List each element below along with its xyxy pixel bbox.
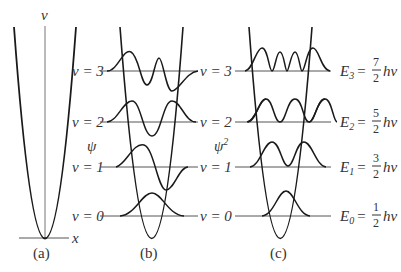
probability-density-2b	[247, 99, 337, 122]
axis-v-label: v	[41, 7, 48, 23]
caption-b: (b)	[140, 245, 158, 262]
svg-text:E0=: E0=	[339, 208, 366, 226]
axis-x-label: x	[71, 230, 79, 246]
label-v2-right: v = 2	[200, 114, 232, 130]
label-v2-left: v = 2	[72, 114, 104, 130]
energy-label-1: E1= 3 2 hν	[339, 151, 398, 181]
svg-text:E3=: E3=	[339, 63, 366, 81]
svg-text:7: 7	[373, 55, 379, 69]
label-v1-right: v = 1	[200, 159, 232, 175]
label-v0-right: v = 0	[200, 208, 232, 224]
svg-text:2: 2	[373, 71, 379, 85]
wavefunction-2	[107, 101, 196, 136]
psi-squared-label: ψ2	[214, 136, 228, 154]
probability-density-3	[245, 48, 330, 71]
energy-label-3: E3= 7 2 hν	[339, 55, 398, 85]
psi-label: ψ	[87, 138, 97, 154]
left-level-labels: v = 3 v = 2 ψ v = 1 v = 0	[72, 63, 104, 224]
svg-text:2: 2	[373, 167, 379, 181]
left-label-ticks	[100, 71, 107, 216]
potential-curve	[120, 27, 183, 239]
svg-text:hν: hν	[383, 63, 398, 79]
wavefunction-0	[120, 193, 184, 216]
svg-text:2: 2	[373, 216, 379, 230]
svg-text:E1=: E1=	[339, 159, 366, 177]
label-v3-left: v = 3	[72, 63, 104, 79]
energy-label-2: E2= 5 2 hν	[339, 106, 398, 136]
energy-label-0: E0= 1 2 hν	[339, 200, 398, 230]
potential-curve	[249, 27, 312, 239]
caption-c: (c)	[270, 245, 287, 262]
svg-text:hν: hν	[383, 208, 398, 224]
harmonic-oscillator-diagram: v x (a) (b) v = 3 v = 2 ψ v = 1 v = 0 v …	[0, 0, 401, 272]
probability-density-0	[262, 191, 310, 216]
panel-a: v x (a)	[14, 7, 79, 262]
middle-level-labels: v = 3 v = 2 ψ2 v = 1 v = 0	[200, 63, 232, 224]
svg-text:2: 2	[373, 122, 379, 136]
panel-c: (c)	[235, 27, 337, 262]
panel-b: (b)	[107, 27, 198, 262]
svg-text:hν: hν	[383, 114, 398, 130]
svg-text:hν: hν	[383, 159, 398, 175]
svg-text:E2=: E2=	[339, 114, 366, 132]
svg-text:5: 5	[373, 106, 379, 120]
label-v1-left: v = 1	[72, 159, 104, 175]
energy-labels: E3= 7 2 hν E2= 5 2 hν E1= 3 2 hν E0= 1 2…	[339, 55, 398, 230]
caption-a: (a)	[33, 245, 50, 262]
svg-text:3: 3	[373, 151, 379, 165]
label-v0-left: v = 0	[72, 208, 104, 224]
svg-text:1: 1	[373, 200, 379, 214]
label-v3-right: v = 3	[200, 63, 232, 79]
